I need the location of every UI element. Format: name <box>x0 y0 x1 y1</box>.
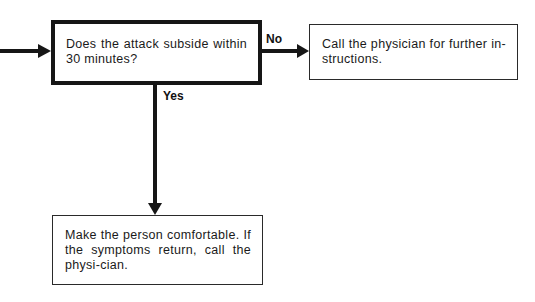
make-comfortable-text: Make the person comfortable. If the symp… <box>65 228 251 273</box>
incoming-arrow <box>0 44 51 58</box>
yes-arrow <box>148 85 162 215</box>
yes-label: Yes <box>163 89 184 103</box>
call-physician-text: Call the physician for further in-struct… <box>322 37 506 67</box>
no-label: No <box>266 32 282 46</box>
call-physician-box: Call the physician for further in-struct… <box>309 24 518 80</box>
no-arrow <box>262 44 309 58</box>
decision-text: Does the attack subside within 30 minute… <box>66 37 247 67</box>
decision-box: Does the attack subside within 30 minute… <box>51 20 262 85</box>
make-comfortable-box: Make the person comfortable. If the symp… <box>52 215 263 285</box>
